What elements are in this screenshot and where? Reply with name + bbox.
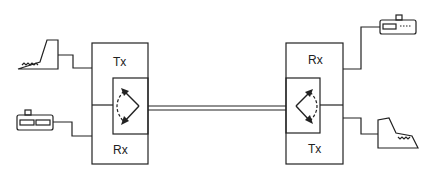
- right-tx-label: Tx: [308, 142, 321, 156]
- right-keyboard-terminal-icon: [378, 118, 418, 148]
- left-keyboard-terminal-icon: [18, 40, 58, 69]
- left-rx-label: Rx: [113, 143, 128, 157]
- left-tx-label: Tx: [113, 55, 126, 69]
- left-printer-icon: [17, 110, 53, 130]
- right-hybrid-box: [286, 78, 320, 133]
- duplex-diagram: [0, 0, 432, 173]
- left-hybrid-box: [113, 78, 148, 134]
- right-printer-icon: [380, 15, 416, 34]
- right-rx-label: Rx: [308, 53, 323, 67]
